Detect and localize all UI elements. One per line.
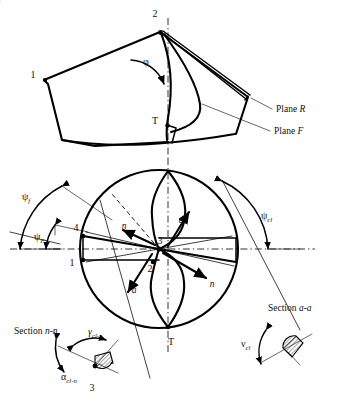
phi-angle-label: φ bbox=[143, 56, 149, 67]
apex-vertex-marker bbox=[158, 30, 163, 35]
point-T-vertex-marker bbox=[165, 123, 169, 127]
arrow-n-right-label: n bbox=[210, 279, 215, 289]
end-view-point-T-marker bbox=[166, 325, 171, 330]
plane-f-label: Plane F bbox=[274, 126, 303, 136]
arrow-n-left-label: n bbox=[122, 221, 127, 231]
side-point-2-label: 2 bbox=[153, 8, 158, 19]
arrow-a-upper-label: a bbox=[179, 215, 184, 225]
point-4-marker bbox=[81, 234, 86, 239]
arrow-a-lower-label: a bbox=[132, 285, 137, 295]
side-point-1-label: 1 bbox=[31, 69, 36, 80]
section-a-a-caption: Section a-a bbox=[268, 303, 312, 313]
end-point-3-label: 3 bbox=[158, 235, 163, 246]
point-1-marker bbox=[81, 258, 86, 263]
end-point-1-label: 1 bbox=[70, 257, 75, 268]
side-point-T-label: T bbox=[152, 115, 158, 126]
section-n-n-point-3-label: 3 bbox=[90, 382, 95, 393]
plane-r-label: Plane R bbox=[276, 104, 305, 114]
point-1-vertex-marker bbox=[43, 78, 47, 82]
technical-drawing-figure: 2 1 T φ Plane R Plane F bbox=[0, 0, 340, 406]
end-point-2-label: 2 bbox=[148, 263, 153, 274]
end-point-T-label: T bbox=[168, 336, 174, 347]
end-point-4-label: 4 bbox=[74, 222, 79, 233]
section-n-n-caption: Section n-n bbox=[14, 326, 58, 336]
drill-center-marker bbox=[156, 246, 161, 251]
